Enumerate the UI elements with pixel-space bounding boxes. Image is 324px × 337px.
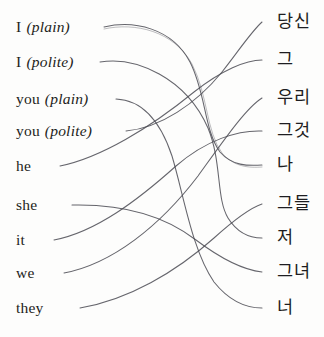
english-pronoun-qualifier: (polite) bbox=[45, 122, 92, 139]
korean-pronoun-item: 너 bbox=[277, 299, 294, 317]
connection-line bbox=[116, 99, 262, 308]
english-pronoun-base: you bbox=[16, 90, 40, 107]
connection-line bbox=[54, 131, 262, 240]
english-pronoun-item: I(polite) bbox=[16, 54, 74, 70]
connection-line bbox=[60, 60, 262, 166]
english-pronoun-item: I(plain) bbox=[16, 19, 70, 35]
english-pronoun-base: it bbox=[16, 231, 25, 248]
pronoun-matching-diagram: I(plain)I(polite)you(plain)you(polite)he… bbox=[0, 0, 324, 337]
korean-pronoun-item: 그들 bbox=[277, 195, 310, 213]
english-pronoun-qualifier: (plain) bbox=[26, 18, 70, 35]
english-pronoun-item: you(plain) bbox=[16, 91, 88, 107]
english-pronoun-base: I bbox=[16, 53, 21, 70]
english-pronoun-base: he bbox=[16, 157, 31, 174]
english-pronoun-base: you bbox=[16, 122, 40, 139]
connection-line-trace bbox=[104, 27, 262, 168]
korean-pronoun-item: 우리 bbox=[277, 89, 310, 107]
korean-pronoun-item: 당신 bbox=[277, 13, 310, 31]
connection-line bbox=[104, 25, 262, 166]
connection-line bbox=[72, 205, 262, 272]
english-pronoun-base: I bbox=[16, 18, 21, 35]
connection-lines-layer bbox=[0, 0, 324, 337]
english-pronoun-item: she bbox=[16, 197, 37, 213]
english-pronoun-item: he bbox=[16, 158, 31, 174]
english-pronoun-item: they bbox=[16, 300, 44, 316]
connection-line bbox=[64, 98, 262, 273]
english-pronoun-item: it bbox=[16, 232, 25, 248]
english-pronoun-base: she bbox=[16, 196, 37, 213]
english-pronoun-base: we bbox=[16, 264, 34, 281]
english-pronoun-base: they bbox=[16, 299, 44, 316]
korean-pronoun-item: 저 bbox=[277, 229, 294, 247]
korean-pronoun-item: 그것 bbox=[277, 122, 310, 140]
korean-pronoun-item: 나 bbox=[277, 156, 294, 174]
english-pronoun-item: we bbox=[16, 265, 34, 281]
korean-pronoun-item: 그 bbox=[277, 51, 294, 69]
english-pronoun-qualifier: (plain) bbox=[45, 90, 89, 107]
connection-line bbox=[80, 204, 262, 308]
english-pronoun-qualifier: (polite) bbox=[26, 53, 73, 70]
connection-line bbox=[126, 22, 262, 131]
connection-line bbox=[100, 61, 262, 238]
english-pronoun-item: you(polite) bbox=[16, 123, 92, 139]
korean-pronoun-item: 그녀 bbox=[277, 263, 310, 281]
